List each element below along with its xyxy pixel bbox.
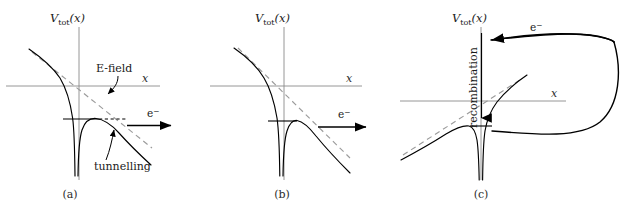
panel-c-potential-left	[401, 126, 479, 180]
panel-b-potential-left	[234, 48, 280, 176]
panel-a-efield-label: E-field	[96, 62, 132, 75]
panel-c-electron-label: e−	[530, 21, 543, 34]
panel-b-y-axis-label: Vtot(x)	[255, 11, 290, 27]
panel-c: Vtot(x) x recombination e− (c)	[400, 11, 618, 201]
panel-a-efield-pointer	[108, 76, 118, 94]
panel-a-y-axis-label: Vtot(x)	[50, 11, 85, 27]
panel-c-y-axis-label: Vtot(x)	[452, 11, 487, 27]
panel-b-caption: (b)	[274, 188, 290, 201]
panel-b: Vtot(x) x e− (b)	[210, 11, 366, 201]
panel-b-x-axis-label: x	[346, 72, 353, 85]
panel-b-efield-dashed	[238, 48, 350, 158]
panel-c-efield-dashed	[403, 78, 523, 155]
panel-c-x-axis-label: x	[551, 87, 558, 100]
panel-c-recombination-label: recombination	[467, 47, 480, 128]
panel-a-tunnelling-pointer	[106, 130, 114, 160]
panel-a-electron-label: e−	[147, 107, 160, 120]
panel-a-potential-left	[29, 49, 75, 176]
panel-a-x-axis-label: x	[142, 72, 149, 85]
physics-figure: Vtot(x) x e− E-field tunnelling (a) Vtot…	[0, 0, 624, 208]
panel-c-potential-right	[483, 75, 527, 180]
panel-b-electron-label: e−	[338, 108, 351, 121]
panel-a: Vtot(x) x e− E-field tunnelling (a)	[6, 11, 171, 201]
panel-a-tunnelling-label: tunnelling	[94, 160, 151, 173]
panel-a-caption: (a)	[62, 188, 77, 201]
panel-c-caption: (c)	[474, 188, 489, 201]
